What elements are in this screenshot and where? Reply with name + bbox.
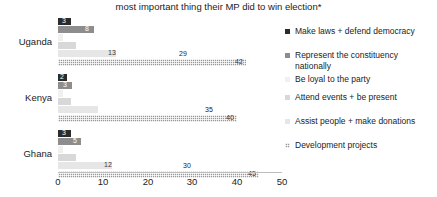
legend-item-label: Assist people + make donations — [295, 116, 415, 127]
legend-swatch-icon — [285, 53, 290, 58]
x-tick-label: 20 — [136, 176, 160, 188]
bar-segment[interactable] — [58, 59, 246, 66]
bar-value-label: 42 — [235, 58, 243, 66]
legend-item-represent-the-constituency-nationally[interactable]: Represent the constituency nationally — [285, 50, 435, 71]
legend-item-be-loyal-to-the-party[interactable]: Be loyal to the party — [285, 74, 370, 85]
bar-segment[interactable] — [58, 146, 63, 153]
legend-item-assist-people-make-donations[interactable]: Assist people + make donations — [285, 116, 415, 127]
bar-annotation-label: 35 — [205, 106, 213, 114]
bar-segment[interactable] — [58, 115, 237, 122]
bar-segment[interactable] — [58, 138, 81, 145]
bar-value-label: 8 — [85, 25, 89, 33]
x-tick-label: 30 — [180, 176, 204, 188]
category-label-uganda: Uganda — [0, 36, 52, 47]
bar-value-label: 40 — [226, 114, 234, 122]
legend-swatch-icon — [285, 95, 290, 100]
bar-value-label: 2 — [60, 73, 64, 81]
legend-item-development-projects[interactable]: Development projects — [285, 140, 377, 151]
bar-annotation-label: 29 — [179, 50, 187, 58]
legend-item-attend-events-be-present[interactable]: Attend events + be present — [285, 92, 397, 103]
bar-value-label: 12 — [104, 161, 112, 169]
bar-value-label: 13 — [108, 49, 116, 57]
plot-area: 3 8 13 29 42 — [58, 18, 282, 172]
legend-swatch-icon — [285, 119, 290, 124]
bar-segment[interactable] — [58, 98, 71, 105]
legend-item-label: Represent the constituency nationally — [295, 50, 435, 71]
x-tick-label: 10 — [91, 176, 115, 188]
bar-segment[interactable] — [58, 90, 63, 97]
legend-item-label: Attend events + be present — [295, 92, 397, 103]
bar-annotation-label: 30 — [183, 162, 191, 170]
x-tick-label: 0 — [46, 176, 70, 188]
bar-chart: most important thing their MP did to win… — [0, 0, 437, 197]
category-label-ghana: Ghana — [0, 148, 52, 159]
bar-value-label: 5 — [73, 137, 77, 145]
bar-value-label: 3 — [62, 129, 66, 137]
legend-item-label: Be loyal to the party — [295, 74, 370, 85]
bar-value-label: 3 — [63, 81, 67, 89]
x-tick-label: 50 — [270, 176, 294, 188]
bar-segment[interactable] — [58, 154, 76, 161]
legend-item-label: Make laws + defend democracy — [295, 26, 415, 37]
category-label-kenya: Kenya — [0, 92, 52, 103]
chart-title: most important thing their MP did to win… — [0, 1, 437, 13]
legend-swatch-icon — [285, 29, 290, 34]
bar-segment[interactable] — [58, 42, 76, 49]
bar-value-label: 3 — [62, 17, 66, 25]
bar-segment[interactable] — [58, 34, 63, 41]
x-axis-line — [58, 172, 282, 173]
legend-swatch-icon — [285, 143, 290, 148]
x-tick-label: 40 — [225, 176, 249, 188]
legend-swatch-icon — [285, 77, 290, 82]
bar-segment[interactable] — [58, 106, 98, 113]
legend-item-label: Development projects — [295, 140, 377, 151]
legend-item-make-laws-defend-democracy[interactable]: Make laws + defend democracy — [285, 26, 415, 37]
